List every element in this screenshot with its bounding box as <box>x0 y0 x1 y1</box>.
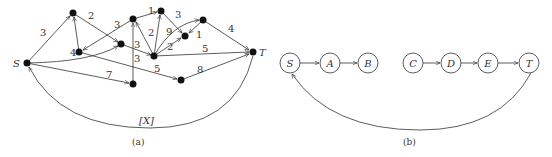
source-label: S <box>13 58 20 69</box>
node-a: A <box>320 53 340 73</box>
weight-label: 2 <box>88 10 94 21</box>
node-s: S <box>280 53 300 73</box>
node-t <box>250 49 257 56</box>
edge-s-n1 <box>27 16 70 63</box>
diagram-canvas: 3 2 4 3 3 3 1 3 2 9 2 1 4 5 5 7 8 [X] <box>0 0 552 157</box>
panel-b: S A B C D E T <box>280 53 539 147</box>
weight-label: 4 <box>70 47 76 58</box>
weight-label: 1 <box>148 5 154 16</box>
node <box>200 17 207 24</box>
caption-a: (a) <box>132 137 144 147</box>
weight-label: 7 <box>106 69 112 80</box>
feedback-edge-label: [X] <box>139 115 154 126</box>
node-label: C <box>409 58 417 69</box>
node-s <box>24 60 31 67</box>
node-e: E <box>478 53 498 73</box>
node <box>70 10 77 17</box>
weight-label: 3 <box>175 9 181 20</box>
edge-t-s <box>292 73 531 130</box>
panel-a-edges <box>27 11 253 128</box>
panel-a: 3 2 4 3 3 3 1 3 2 9 2 1 4 5 5 7 8 [X] <box>13 5 267 147</box>
node-label: E <box>483 58 492 69</box>
node-d: D <box>441 53 461 73</box>
weight-label: 3 <box>40 27 46 38</box>
edge-n10-t <box>181 54 249 80</box>
weight-label: 2 <box>148 27 154 38</box>
weight-label: 5 <box>202 43 208 54</box>
weight-label: 8 <box>197 64 203 75</box>
weight-label: 4 <box>228 23 234 34</box>
node <box>178 77 185 84</box>
panel-a-weights: 3 2 4 3 3 3 1 3 2 9 2 1 4 5 5 7 8 [X] <box>40 5 234 126</box>
edge-n1-n3 <box>73 13 118 42</box>
node-label: S <box>287 58 294 69</box>
node <box>130 16 137 23</box>
edge-n6-n5 <box>154 15 160 56</box>
node-c: C <box>403 53 423 73</box>
weight-label: 9 <box>166 26 172 37</box>
sink-label: T <box>259 47 267 58</box>
node-label: A <box>325 58 333 69</box>
node <box>151 53 158 60</box>
edge-n6-n8 <box>154 20 199 56</box>
weight-label: 3 <box>134 53 140 64</box>
caption-b: (b) <box>403 137 416 147</box>
node <box>182 33 189 40</box>
node-label: D <box>446 58 455 69</box>
edge-n8-t <box>203 20 249 50</box>
node <box>118 41 125 48</box>
node-label: B <box>363 58 371 69</box>
weight-label: 3 <box>134 39 140 50</box>
node-t: T <box>519 53 539 73</box>
edge-s-n9 <box>27 63 129 83</box>
weight-label: 5 <box>154 63 160 74</box>
node <box>130 81 137 88</box>
node <box>76 49 83 56</box>
node-b: B <box>358 53 378 73</box>
node <box>158 8 165 15</box>
weight-label: 1 <box>196 29 202 40</box>
weight-label: 2 <box>167 41 173 52</box>
weight-label: 3 <box>114 19 120 30</box>
